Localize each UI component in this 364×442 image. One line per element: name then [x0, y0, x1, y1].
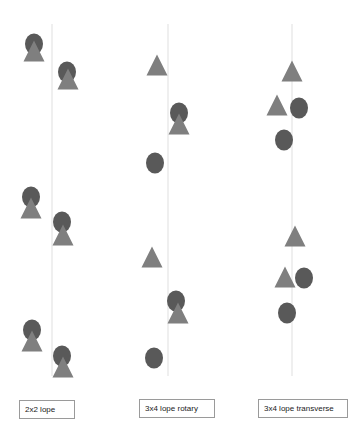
- label-3x4-lope-transverse: 3x4 lope transverse: [258, 399, 348, 418]
- circle-marker-icon: [275, 130, 293, 151]
- label-2x2-lope: 2x2 lope: [19, 400, 75, 419]
- triangle-marker-icon: [285, 226, 306, 247]
- triangle-marker-icon: [147, 55, 168, 76]
- triangle-marker-icon: [267, 95, 288, 116]
- footfall-marks: [21, 34, 314, 378]
- circle-marker-icon: [295, 268, 313, 289]
- gait-diagram: [0, 0, 364, 442]
- circle-marker-icon: [290, 98, 308, 119]
- triangle-marker-icon: [142, 247, 163, 268]
- circle-marker-icon: [145, 348, 163, 369]
- label-3x4-lope-rotary: 3x4 lope rotary: [139, 399, 215, 418]
- circle-marker-icon: [146, 153, 164, 174]
- triangle-marker-icon: [282, 61, 303, 82]
- circle-marker-icon: [278, 303, 296, 324]
